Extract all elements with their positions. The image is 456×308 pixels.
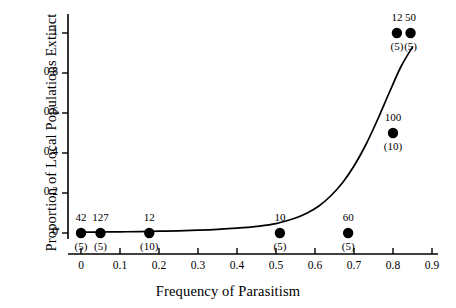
data-point <box>343 228 353 238</box>
x-tick-label: 0.4 <box>217 259 257 271</box>
x-tick-label: 0.1 <box>100 259 140 271</box>
x-tick-label: 0 <box>61 259 101 271</box>
x-tick-label: 0.7 <box>334 259 374 271</box>
y-tick-label: 0.8 <box>18 65 58 77</box>
y-tick-label: 0.6 <box>18 105 58 117</box>
point-replicate-count-label: (5) <box>326 240 370 252</box>
y-tick-label: 0.4 <box>18 145 58 157</box>
x-tick-label: 0.5 <box>256 259 296 271</box>
point-replicate-count-label: (5) <box>258 240 302 252</box>
y-tick-label: 0.2 <box>18 185 58 197</box>
data-point <box>76 228 86 238</box>
point-replicate-count-label: (10) <box>371 140 415 152</box>
point-sample-size-label: 127 <box>79 211 123 223</box>
x-tick-label: 0.6 <box>295 259 335 271</box>
data-point <box>95 228 105 238</box>
y-tick-label: 1 <box>18 25 58 37</box>
chart-figure: Frequency of Parasitism Proportion of Lo… <box>0 0 456 308</box>
point-sample-size-label: 10 <box>258 211 302 223</box>
x-axis-title: Frequency of Parasitism <box>0 283 456 300</box>
data-point <box>144 228 154 238</box>
data-point <box>388 128 398 138</box>
point-sample-size-label: 50 <box>389 11 433 23</box>
y-tick-label: 0 <box>18 225 58 237</box>
point-replicate-count-label: (5) <box>79 240 123 252</box>
data-point <box>392 28 402 38</box>
x-tick-label: 0.9 <box>412 259 452 271</box>
point-sample-size-label: 12 <box>127 211 171 223</box>
data-points-group <box>76 28 416 238</box>
point-sample-size-label: 60 <box>326 211 370 223</box>
point-sample-size-label: 100 <box>371 111 415 123</box>
y-axis-title: Proportion of Local Populations Extinct <box>43 0 60 288</box>
data-point <box>405 28 415 38</box>
fitted-curve <box>81 47 413 232</box>
data-point <box>275 228 285 238</box>
x-tick-label: 0.2 <box>139 259 179 271</box>
x-tick-label: 0.3 <box>178 259 218 271</box>
point-replicate-count-label: (10) <box>127 240 171 252</box>
point-replicate-count-label: (5) <box>389 40 433 52</box>
x-tick-label: 0.8 <box>373 259 413 271</box>
